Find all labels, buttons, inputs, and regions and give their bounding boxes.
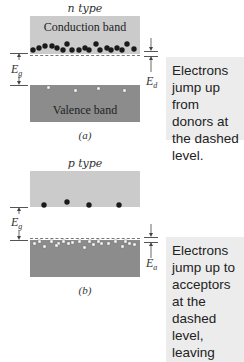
diagram-graphics <box>0 0 244 362</box>
valence-holes-a <box>47 86 126 92</box>
conduction-electrons-b <box>41 199 121 207</box>
acceptor-holes <box>33 240 136 249</box>
donor-electrons <box>30 41 136 52</box>
